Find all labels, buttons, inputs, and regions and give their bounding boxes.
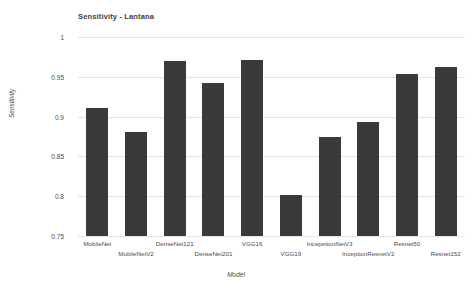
bar — [357, 122, 379, 236]
x-tick-label: Resnet152 — [431, 250, 461, 257]
y-tick-label: 0.8 — [55, 193, 64, 200]
x-tick-label: DenseNet121 — [156, 240, 194, 247]
x-tick-label: MobileNetV2 — [118, 250, 153, 257]
x-tick-label: MobileNet — [83, 240, 111, 247]
bar — [241, 60, 263, 236]
y-tick-label: 0.9 — [55, 113, 64, 120]
bar — [164, 61, 186, 236]
x-tick-label: VGG16 — [242, 240, 263, 247]
bar-chart: Sensitivity - Lantana Sensitivity 0.750.… — [0, 0, 472, 292]
x-axis-title: Model — [227, 271, 245, 278]
y-tick-label: 0.95 — [51, 73, 64, 80]
x-axis: MobileNetMobileNetV2DenseNet121DenseNet2… — [78, 236, 465, 268]
bar — [86, 108, 108, 236]
bar — [125, 132, 147, 236]
y-axis: 0.750.80.850.90.951 — [0, 37, 74, 236]
bar — [280, 195, 302, 236]
plot-area — [78, 37, 465, 236]
bar — [396, 74, 418, 236]
x-tick-label: InceptionResnetV2 — [342, 250, 394, 257]
bar — [202, 83, 224, 236]
y-tick-label: 0.85 — [51, 153, 64, 160]
bar — [435, 67, 457, 236]
bar — [319, 137, 341, 237]
x-tick-label: Resnet50 — [394, 240, 421, 247]
y-tick-label: 0.75 — [51, 233, 64, 240]
y-tick-label: 1 — [60, 34, 64, 41]
x-tick-label: VGG19 — [281, 250, 302, 257]
gridline — [78, 37, 465, 38]
x-tick-label: DenseNet201 — [195, 250, 233, 257]
x-tick-label: IncepetionNetV3 — [307, 240, 353, 247]
chart-title: Sensitivity - Lantana — [78, 12, 154, 21]
